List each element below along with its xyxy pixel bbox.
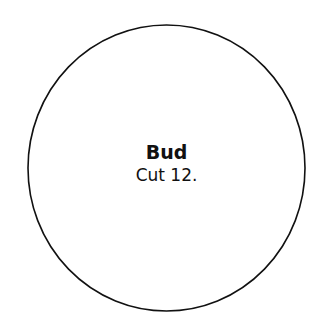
cut-count: Cut 12. <box>0 164 329 186</box>
shape-title: Bud <box>0 140 329 164</box>
shape-label: Bud Cut 12. <box>0 140 329 186</box>
